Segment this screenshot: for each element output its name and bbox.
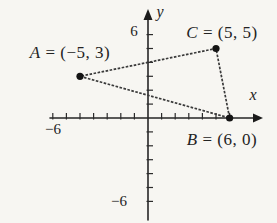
- point-c-coords: = (5, 5): [203, 23, 258, 42]
- point-a-name: A: [30, 43, 41, 62]
- x-axis-arrowhead: [253, 114, 263, 123]
- point-dot-B: [226, 114, 233, 121]
- point-c-name: C: [186, 23, 198, 42]
- y-tick-label-pos6: 6: [130, 24, 138, 39]
- x-tick-label-neg6: −6: [45, 122, 61, 137]
- point-b-label: B = (6, 0): [187, 131, 257, 148]
- y-axis-label: y: [156, 4, 163, 20]
- point-a-label: A = (−5, 3): [30, 44, 110, 61]
- point-c-label: C = (5, 5): [186, 24, 257, 41]
- y-tick-label-neg6: −6: [111, 194, 127, 209]
- point-b-coords: = (6, 0): [202, 130, 257, 149]
- point-b-name: B: [187, 130, 198, 149]
- x-axis-label: x: [249, 87, 256, 103]
- point-dot-C: [212, 45, 219, 52]
- point-a-coords: = (−5, 3): [45, 43, 110, 62]
- y-axis-arrowhead: [144, 9, 153, 20]
- point-dot-A: [76, 73, 83, 80]
- coordinate-plane-figure: A = (−5, 3) B = (6, 0) C = (5, 5) y x 6 …: [0, 0, 277, 223]
